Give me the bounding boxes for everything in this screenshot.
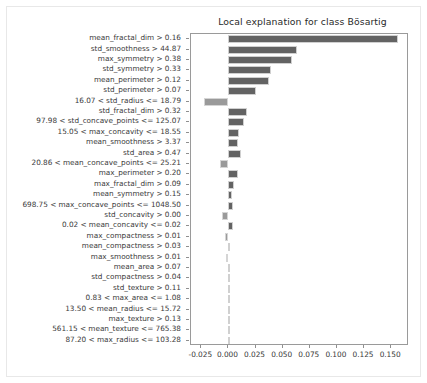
y-axis-tick-label: mean_perimeter > 0.12: [94, 76, 181, 84]
y-axis-tick-label: 97.98 < std_concave_points <= 125.07: [36, 117, 181, 125]
bar: [228, 108, 247, 116]
bar: [228, 56, 291, 64]
y-axis-tick-label: std_concavity > 0.00: [104, 211, 181, 219]
bar: [204, 98, 228, 106]
y-axis-tick-mark: [186, 173, 189, 174]
y-axis-tick-label: std_smoothness > 44.87: [91, 45, 181, 53]
y-axis-tick-mark: [186, 236, 189, 237]
bar: [228, 274, 230, 282]
y-axis-tick-label: 87.20 < max_radius <= 103.28: [65, 336, 181, 344]
bar: [228, 285, 230, 293]
y-axis-tick-label: mean_area > 0.07: [114, 263, 181, 271]
bar: [228, 46, 297, 54]
y-axis-tick-mark: [186, 309, 189, 310]
y-axis-tick-mark: [186, 69, 189, 70]
y-axis-tick-mark: [186, 288, 189, 289]
bar: [220, 160, 229, 168]
y-axis-tick-mark: [186, 101, 189, 102]
y-axis-tick-mark: [186, 319, 189, 320]
y-axis-tick-mark: [186, 329, 189, 330]
y-axis-tick-label: 13.50 < mean_radius <= 15.72: [65, 305, 181, 313]
bar: [228, 129, 238, 137]
y-axis-tick-mark: [186, 121, 189, 122]
y-axis-tick-label: std_perimeter > 0.07: [103, 86, 181, 94]
bar: [228, 222, 233, 230]
x-axis-tick-label: 0.075: [298, 350, 319, 359]
bar: [228, 181, 234, 189]
bar: [225, 233, 228, 241]
x-axis-tick-mark: [227, 345, 228, 348]
bar: [228, 139, 238, 147]
bar: [228, 337, 230, 344]
y-axis-tick-label: 15.05 < max_concavity <= 18.55: [58, 128, 181, 136]
plot-area: [190, 33, 408, 345]
bar: [226, 254, 228, 262]
x-axis-tick-mark: [255, 345, 256, 348]
bar: [228, 326, 230, 334]
bar: [228, 66, 271, 74]
bar: [228, 118, 244, 126]
x-axis-tick-label: 0.125: [353, 350, 374, 359]
y-axis-tick-label: mean_fractal_dim > 0.16: [89, 34, 181, 42]
figure-container: Local explanation for class Bösartig mea…: [0, 0, 427, 383]
y-axis-tick-mark: [186, 277, 189, 278]
y-axis-tick-label: mean_symmetry > 0.15: [93, 190, 181, 198]
y-axis-tick-label: 561.15 < mean_texture <= 765.38: [52, 325, 181, 333]
x-axis-tick-label: 0.050: [271, 350, 292, 359]
y-axis-tick-label: std_compactness > 0.04: [91, 273, 181, 281]
y-axis-tick-mark: [186, 184, 189, 185]
y-axis-tick-mark: [186, 267, 189, 268]
bar: [228, 295, 230, 303]
x-axis-tick-label: 0.150: [380, 350, 401, 359]
y-axis-tick-mark: [186, 246, 189, 247]
y-axis-tick-mark: [186, 225, 189, 226]
x-axis-tick-mark: [309, 345, 310, 348]
bar: [228, 202, 232, 210]
x-axis-tick-mark: [363, 345, 364, 348]
y-axis-tick-label: max_compactness > 0.01: [87, 232, 181, 240]
y-axis-tick-label: 698.75 < max_concave_points <= 1048.50: [22, 201, 181, 209]
y-axis-tick-mark: [186, 340, 189, 341]
y-axis-tick-mark: [186, 38, 189, 39]
y-axis-tick-mark: [186, 257, 189, 258]
x-axis-tick-mark: [200, 345, 201, 348]
y-axis-tick-label: 20.86 < mean_concave_points <= 25.21: [32, 159, 181, 167]
y-axis-tick-label: 0.83 < max_area <= 1.08: [86, 294, 181, 302]
y-axis-tick-label: max_perimeter > 0.20: [99, 169, 181, 177]
y-axis-tick-label: 16.07 < std_radius <= 18.79: [75, 97, 181, 105]
bar: [228, 170, 237, 178]
x-axis-tick-label: 0.025: [244, 350, 265, 359]
y-axis-tick-mark: [186, 80, 189, 81]
y-axis-tick-mark: [186, 153, 189, 154]
y-axis-tick-mark: [186, 49, 189, 50]
bar: [228, 264, 230, 272]
y-axis-tick-mark: [186, 59, 189, 60]
bar: [228, 191, 231, 199]
y-axis-tick-mark: [186, 90, 189, 91]
x-axis-tick-mark: [282, 345, 283, 348]
y-axis-tick-mark: [186, 142, 189, 143]
y-axis-tick-label: max_symmetry > 0.38: [98, 55, 181, 63]
x-axis-tick-mark: [336, 345, 337, 348]
y-axis-tick-mark: [186, 163, 189, 164]
bars-layer: [191, 34, 407, 344]
chart-title: Local explanation for class Bösartig: [190, 16, 415, 27]
y-axis-tick-label: mean_smoothness > 3.37: [86, 138, 181, 146]
bar: [228, 35, 398, 43]
y-axis-tick-label: max_fractal_dim > 0.09: [94, 180, 181, 188]
y-axis-tick-label: max_smoothness > 0.01: [91, 253, 181, 261]
y-axis-tick-mark: [186, 298, 189, 299]
bar: [228, 243, 230, 251]
x-axis-tick-label: -0.025: [189, 350, 213, 359]
bar: [228, 77, 269, 85]
y-axis-tick-label: 0.02 < mean_concavity <= 0.02: [62, 221, 181, 229]
y-axis-tick-mark: [186, 215, 189, 216]
y-axis-tick-mark: [186, 194, 189, 195]
y-axis-tick-label: std_fractal_dim > 0.32: [99, 107, 181, 115]
y-axis-tick-label: max_texture > 0.13: [108, 315, 181, 323]
x-axis-tick-mark: [390, 345, 391, 348]
bar: [228, 316, 230, 324]
y-axis-tick-label: mean_compactness > 0.03: [82, 242, 181, 250]
bar: [228, 150, 240, 158]
y-axis-tick-label: std_texture > 0.11: [113, 284, 181, 292]
